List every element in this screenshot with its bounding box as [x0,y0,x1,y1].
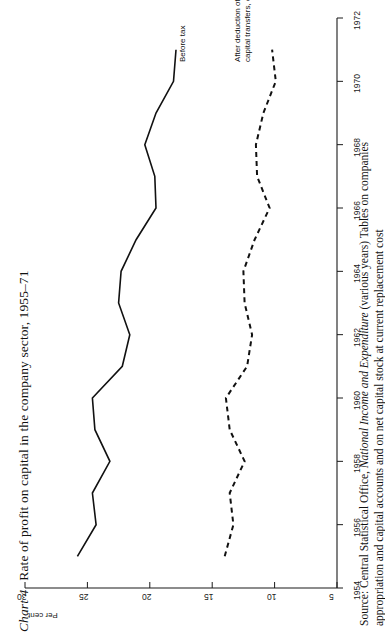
series-label-before-tax: Before tax [178,26,188,62]
value-tick-20: 20 [142,592,151,602]
year-tick-1970: 1970 [352,74,362,93]
value-tick-30: 30 [17,592,26,602]
source-line-1: Source: Central Statistical Office, Nati… [358,142,370,626]
value-tick-5: 5 [329,592,334,602]
value-tick-15: 15 [204,592,213,602]
series-before-tax [77,50,176,557]
y-axis-title: Per cent [28,611,58,620]
source-prefix: Source: Central Statistical Office, [358,468,370,626]
series-after-tax [225,50,276,557]
series-label-after-tax-line1: After deduction of tax and addition of [233,0,243,62]
value-tick-10: 10 [267,592,276,602]
source-line-2: appropriation and capital accounts and o… [373,229,385,626]
value-tick-25: 25 [79,592,88,602]
time-axis-ticks [337,18,343,588]
source-publication: National Income and Expenditure [358,312,370,468]
source-suffix: (various years) Tables on companies [358,142,370,312]
year-tick-1972: 1972 [352,11,362,30]
value-axis-ticks [25,582,337,588]
series-label-after-tax-line2: capital transfers, especially investment… [243,0,253,62]
